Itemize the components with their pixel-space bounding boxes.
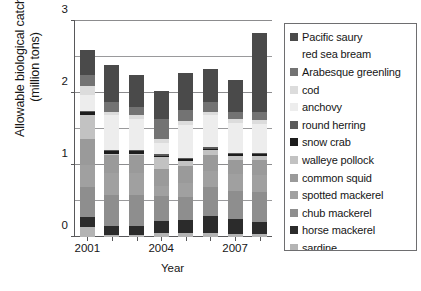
legend-swatch-icon — [290, 103, 298, 111]
bar-segment — [80, 227, 95, 237]
legend-item-label: spotted mackerel — [302, 189, 383, 201]
legend-item-label: cod — [302, 84, 319, 96]
gridline — [75, 56, 272, 57]
legend-item-label: sardine — [302, 242, 337, 251]
y-axis-tick — [71, 92, 75, 93]
bar-segment — [228, 160, 243, 174]
bar-segment — [154, 119, 169, 139]
legend-item[interactable]: sardine — [290, 239, 413, 251]
legend-item-label: horse mackerel — [302, 224, 375, 236]
legend-item[interactable]: red sea bream — [290, 46, 413, 64]
bar-segment — [104, 195, 119, 227]
legend-item-label: anchovy — [302, 101, 342, 113]
legend-item[interactable]: horse mackerel — [290, 222, 413, 240]
x-axis-tick — [137, 237, 138, 241]
bar-segment — [129, 173, 144, 195]
legend-item[interactable]: round herring — [290, 116, 413, 134]
bar-2001[interactable] — [80, 50, 95, 237]
legend-item[interactable]: anchovy — [290, 98, 413, 116]
legend-swatch-icon — [290, 86, 298, 94]
bar-segment — [252, 175, 267, 192]
legend-swatch-icon — [290, 226, 298, 234]
bar-segment — [154, 233, 169, 237]
legend-item-label: red sea bream — [302, 48, 371, 60]
bar-segment — [203, 187, 218, 217]
bar-segment — [178, 183, 193, 197]
bar-segment — [80, 217, 95, 227]
bar-2006[interactable] — [203, 69, 218, 237]
bar-segment — [129, 107, 144, 115]
bar-segment — [154, 169, 169, 186]
bar-segment — [104, 155, 119, 173]
bar-segment — [154, 91, 169, 119]
bar-2008[interactable] — [252, 33, 267, 237]
legend-item[interactable]: spotted mackerel — [290, 186, 413, 204]
legend-item[interactable]: walleye pollock — [290, 151, 413, 169]
legend-item-label: Arabesque greenling — [302, 66, 401, 78]
x-axis-tick-label: 2007 — [222, 242, 248, 254]
legend-swatch-icon — [290, 138, 298, 146]
y-axis-tick-label: 1 — [62, 147, 68, 159]
x-axis-tick — [87, 237, 88, 241]
bar-segment — [203, 115, 218, 147]
bar-segment — [104, 235, 119, 237]
bar-segment — [252, 234, 267, 237]
bar-segment — [80, 86, 95, 95]
bar-segment — [252, 124, 267, 153]
bar-segment — [178, 125, 193, 158]
legend-item-label: chub mackerel — [302, 207, 372, 219]
bar-segment — [228, 219, 243, 234]
bar-segment — [154, 186, 169, 196]
bar-segment — [104, 226, 119, 235]
legend-swatch-icon — [290, 156, 298, 164]
bar-2005[interactable] — [178, 73, 193, 237]
legend-item[interactable]: Arabesque greenling — [290, 63, 413, 81]
x-axis-tick-label: 2004 — [148, 242, 174, 254]
bar-2004[interactable] — [154, 91, 169, 237]
y-axis-tick-label: 0 — [62, 219, 68, 231]
bar-segment — [252, 33, 267, 112]
y-axis-tick — [71, 236, 75, 237]
bar-segment — [178, 110, 193, 122]
legend-item[interactable]: Pacific saury — [290, 28, 413, 46]
legend-item[interactable]: snow crab — [290, 134, 413, 152]
bar-segment — [129, 226, 144, 235]
bar-segment — [104, 102, 119, 112]
bar-segment — [178, 73, 193, 110]
legend-swatch-icon — [290, 244, 298, 251]
bar-segment — [80, 165, 95, 187]
bar-segment — [252, 192, 267, 222]
legend-swatch-icon — [290, 174, 298, 182]
bar-segment — [154, 143, 169, 155]
x-axis-tick — [186, 237, 187, 241]
chart-legend: Pacific sauryred sea breamArabesque gree… — [284, 23, 417, 251]
bar-segment — [252, 160, 267, 175]
bar-segment — [228, 123, 243, 153]
bar-2003[interactable] — [129, 75, 144, 237]
bar-segment — [80, 50, 95, 75]
bar-segment — [228, 191, 243, 219]
bar-segment — [228, 174, 243, 191]
legend-item-label: round herring — [302, 119, 365, 131]
bar-segment — [252, 222, 267, 234]
y-axis-tick — [71, 164, 75, 165]
x-axis-tick — [210, 237, 211, 241]
legend-swatch-icon — [290, 121, 298, 129]
legend-item[interactable]: chub mackerel — [290, 204, 413, 222]
bar-2002[interactable] — [104, 65, 119, 237]
legend-swatch-icon — [290, 191, 298, 199]
bar-segment — [129, 119, 144, 150]
bar-segment — [154, 157, 169, 169]
legend-swatch-icon — [290, 209, 298, 217]
legend-item[interactable]: common squid — [290, 169, 413, 187]
y-axis-tick-label: 3 — [62, 3, 68, 15]
bar-segment — [203, 155, 218, 171]
plot-area: 0123200120042007 — [74, 21, 271, 237]
bar-2007[interactable] — [228, 80, 243, 237]
bar-segment — [203, 171, 218, 187]
bar-segment — [80, 187, 95, 217]
legend-item[interactable]: cod — [290, 81, 413, 99]
bar-segment — [104, 65, 119, 102]
y-axis-tick — [71, 20, 75, 21]
x-axis-tick-label: 2001 — [75, 242, 101, 254]
